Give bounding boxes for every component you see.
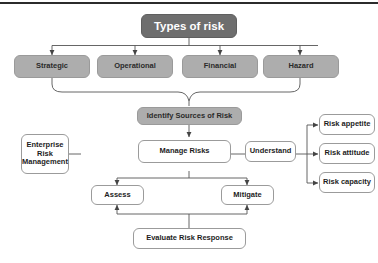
top-divider [0, 2, 378, 4]
node-risk-appetite[interactable]: Risk appetite [319, 114, 375, 135]
node-understand[interactable]: Understand [245, 141, 296, 162]
diagram-canvas: Types of risk Strategic Operational Fina… [0, 0, 378, 263]
wire-hazard-curve [189, 78, 300, 101]
wire-strategic-curve [52, 78, 189, 106]
node-mitigate[interactable]: Mitigate [221, 185, 274, 205]
node-identify-sources-of-risk[interactable]: Identify Sources of Risk [137, 107, 242, 125]
node-assess[interactable]: Assess [91, 185, 144, 205]
node-risk-attitude[interactable]: Risk attitude [319, 143, 375, 164]
node-risk-type-hazard[interactable]: Hazard [263, 55, 339, 78]
node-risk-type-financial[interactable]: Financial [182, 55, 258, 78]
node-types-of-risk[interactable]: Types of risk [141, 14, 237, 38]
node-evaluate-risk-response[interactable]: Evaluate Risk Response [133, 228, 246, 249]
node-risk-type-operational[interactable]: Operational [97, 55, 173, 78]
node-risk-type-strategic[interactable]: Strategic [14, 55, 90, 78]
node-enterprise-risk-management[interactable]: Enterprise Risk Management [21, 134, 69, 174]
node-manage-risks[interactable]: Manage Risks [138, 140, 231, 163]
node-risk-capacity[interactable]: Risk capacity [319, 172, 375, 193]
